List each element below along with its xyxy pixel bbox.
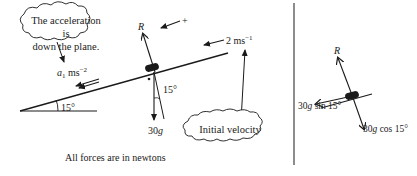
velocity-label: 2 ms−1 [226,35,253,46]
cloud-line-2: down the plane. [30,40,102,53]
weight-label: 30g [148,126,163,136]
acceleration-arrow-double [79,82,99,88]
cloud-acceleration-text: The acceleration is down the plane. [30,14,102,53]
cloud-velocity-text: Initial velocity [190,123,270,136]
component-parallel-label: 30g sin 15° [298,102,341,112]
normal-reference-line [154,72,164,119]
cloud-line-1: The acceleration is [30,14,102,40]
incline-angle-label: 15° [61,103,75,113]
positive-direction-arrow [161,21,180,28]
incline-angle-arc [56,100,58,111]
right-force-diagram [316,58,372,129]
inclined-plane [20,53,228,111]
velocity-arrow [204,40,224,45]
reaction-label: R [138,22,144,32]
footer-note: All forces are in newtons [65,153,166,163]
block [144,62,159,80]
component-perpendicular-label: 30g cos 15° [363,125,408,135]
acceleration-label: a1 ms−2 [57,67,87,80]
right-reaction-label: R [334,46,340,56]
positive-direction-label: + [182,16,188,26]
weight-angle-label: 15° [163,85,177,95]
weight-angle-arc [154,98,160,99]
